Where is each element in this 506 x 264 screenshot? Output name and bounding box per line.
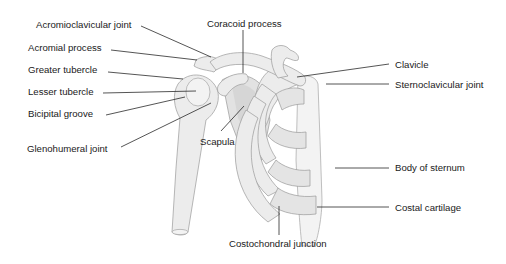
label-body-of-sternum: Body of sternum [395,162,465,173]
label-costochondral-junction: Costochondral junction [229,238,327,249]
label-lesser-tubercle: Lesser tubercle [28,86,94,97]
leader-greater-tubercle [108,72,183,79]
label-coracoid-process: Coracoid process [207,18,282,29]
leader-clavicle [297,64,389,77]
leader-acromial-process [111,50,197,60]
label-acromial-process: Acromial process [28,42,102,53]
label-greater-tubercle: Greater tubercle [28,64,97,75]
label-costal-cartilage: Costal cartilage [395,202,461,213]
leader-acromioclavicular-joint [141,26,211,57]
label-acromioclavicular-joint: Acromioclavicular joint [36,19,132,30]
leader-bicipital-groove [106,97,185,115]
label-bicipital-groove: Bicipital groove [28,108,93,119]
humeral-head [186,78,210,106]
skeleton-illustration [172,46,322,247]
label-scapula: Scapula [200,136,235,147]
label-sternoclavicular-joint: Sternoclavicular joint [395,79,484,90]
diagram-canvas: Acromioclavicular joint Coracoid process… [0,0,506,264]
anatomy-diagram: Acromioclavicular joint Coracoid process… [0,0,506,264]
humerus-distal-end [172,229,188,234]
label-clavicle: Clavicle [395,59,429,70]
label-glenohumeral-joint: Glenohumeral joint [27,143,108,154]
